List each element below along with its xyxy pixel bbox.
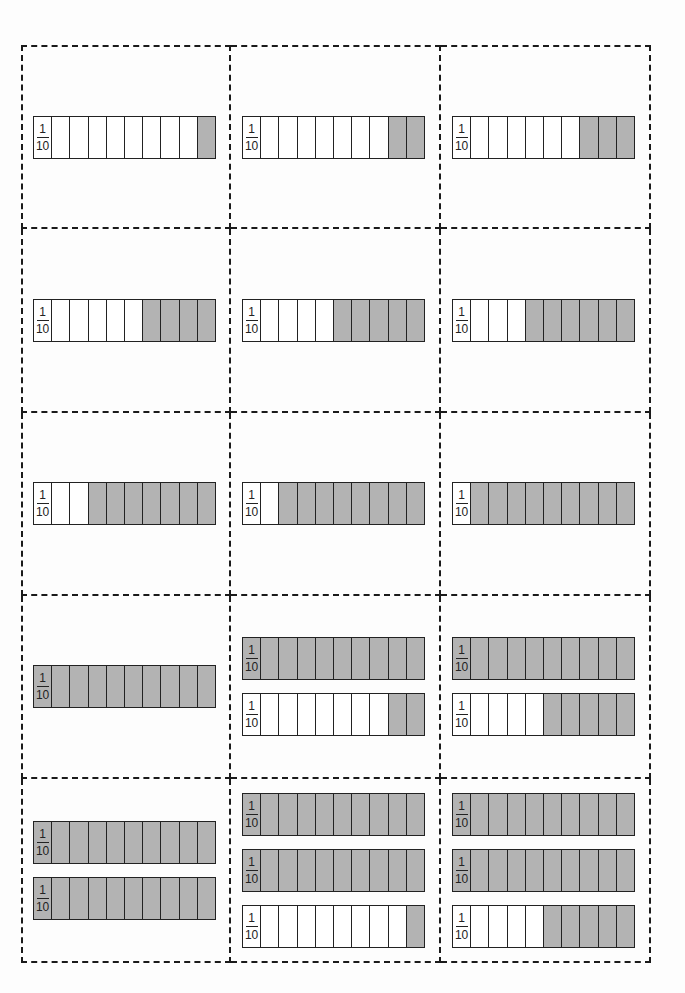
- fraction-denominator: 10: [36, 321, 49, 335]
- bar-segment: [333, 638, 351, 679]
- bar-segment: [561, 694, 579, 735]
- bar-segment: [470, 850, 488, 891]
- bar-segment: [561, 906, 579, 947]
- fraction-numerator: 1: [458, 644, 465, 658]
- fraction-numerator: 1: [248, 912, 255, 926]
- bar-segment: [406, 483, 424, 524]
- fraction-label-segment: 110: [453, 694, 470, 735]
- fraction-numerator: 1: [39, 123, 46, 137]
- bar-segment: [598, 300, 616, 341]
- bar-segment: [297, 850, 315, 891]
- bar-segment: [278, 483, 296, 524]
- bar-segment: [598, 483, 616, 524]
- bar-segment: [369, 300, 387, 341]
- bar-segment: [315, 300, 333, 341]
- fraction-card: 110: [21, 229, 231, 413]
- bar-segment: [488, 850, 506, 891]
- bar-segment: [561, 300, 579, 341]
- tenths-bar: 110: [452, 849, 635, 892]
- bar-segment: [106, 483, 124, 524]
- bar-segment: [525, 850, 543, 891]
- fraction-numerator: 1: [248, 856, 255, 870]
- tenths-bar: 110: [33, 299, 216, 342]
- bar-segment: [470, 638, 488, 679]
- bar-segment: [260, 694, 278, 735]
- bar-segment: [260, 483, 278, 524]
- bar-segment: [616, 850, 634, 891]
- bar-segment: [543, 483, 561, 524]
- tenths-bar: 110: [242, 905, 425, 948]
- bar-segment: [333, 483, 351, 524]
- fraction-numerator: 1: [39, 828, 46, 842]
- tenths-bar: 110: [452, 482, 635, 525]
- bar-segment: [525, 117, 543, 158]
- bar-segment: [160, 117, 178, 158]
- bar-segment: [369, 850, 387, 891]
- bar-segment: [525, 483, 543, 524]
- bar-segment: [507, 850, 525, 891]
- bar-segment: [197, 117, 215, 158]
- bar-segment: [278, 850, 296, 891]
- bar-segment: [88, 822, 106, 863]
- bar-segment: [525, 300, 543, 341]
- bar-segment: [197, 666, 215, 707]
- fraction-card: 110110: [231, 596, 441, 779]
- bar-segment: [388, 694, 406, 735]
- fraction-denominator: 10: [36, 899, 49, 913]
- fraction-label-segment: 110: [453, 794, 470, 835]
- bar-segment: [278, 117, 296, 158]
- bar-segment: [388, 850, 406, 891]
- bar-segment: [315, 694, 333, 735]
- bar-segment: [51, 822, 69, 863]
- bar-segment: [69, 878, 87, 919]
- bar-segment: [197, 878, 215, 919]
- bar-segment: [333, 694, 351, 735]
- fraction-card: 110: [441, 413, 651, 596]
- bar-segment: [470, 483, 488, 524]
- bar-segment: [488, 300, 506, 341]
- tenths-bar: 110: [242, 299, 425, 342]
- bar-segment: [260, 794, 278, 835]
- bar-segment: [470, 794, 488, 835]
- bar-segment: [142, 300, 160, 341]
- bar-segment: [351, 906, 369, 947]
- bar-segment: [616, 483, 634, 524]
- fraction-numerator: 1: [458, 856, 465, 870]
- bar-segment: [297, 117, 315, 158]
- bar-segment: [160, 483, 178, 524]
- bar-segment: [179, 300, 197, 341]
- bar-segment: [616, 117, 634, 158]
- bar-segment: [351, 300, 369, 341]
- bar-segment: [598, 694, 616, 735]
- bar-segment: [388, 483, 406, 524]
- bar-segment: [369, 117, 387, 158]
- bar-segment: [579, 850, 597, 891]
- bar-segment: [333, 300, 351, 341]
- bar-segment: [525, 906, 543, 947]
- fraction-card: 110: [231, 45, 441, 229]
- bar-segment: [579, 483, 597, 524]
- bar-segment: [369, 638, 387, 679]
- bar-segment: [543, 906, 561, 947]
- bar-segment: [51, 117, 69, 158]
- bar-segment: [179, 878, 197, 919]
- bar-segment: [488, 906, 506, 947]
- bar-segment: [106, 878, 124, 919]
- bar-segment: [525, 794, 543, 835]
- bar-segment: [561, 483, 579, 524]
- bar-segment: [333, 794, 351, 835]
- fraction-card: 110110110: [441, 779, 651, 963]
- bar-segment: [179, 117, 197, 158]
- bar-segment: [278, 694, 296, 735]
- bar-segment: [543, 300, 561, 341]
- bar-segment: [488, 117, 506, 158]
- bar-segment: [388, 117, 406, 158]
- bar-segment: [598, 850, 616, 891]
- fraction-denominator: 10: [36, 843, 49, 857]
- tenths-bar: 110: [242, 116, 425, 159]
- bar-segment: [598, 638, 616, 679]
- bar-segment: [142, 666, 160, 707]
- bar-segment: [507, 906, 525, 947]
- bar-segment: [470, 694, 488, 735]
- bar-segment: [315, 638, 333, 679]
